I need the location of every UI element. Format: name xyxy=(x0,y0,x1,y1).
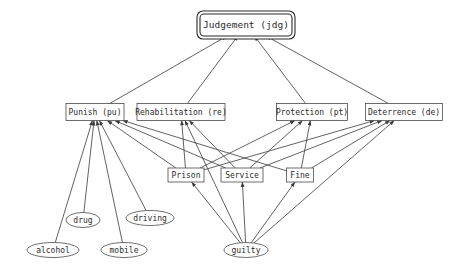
node-guilty[interactable]: guilty xyxy=(224,243,268,258)
edge-service-to-punish xyxy=(115,121,226,169)
node-judgement[interactable]: Judgement (jdg) xyxy=(197,11,295,39)
node-drug[interactable]: drug xyxy=(66,213,100,228)
node-label-mobile: mobile xyxy=(110,246,139,255)
edge-guilty-to-service xyxy=(242,182,245,243)
edge-service-to-deterrence xyxy=(260,121,382,169)
node-label-deterrence: Deterrence (de) xyxy=(368,108,440,117)
edge-mobile-to-punish xyxy=(97,121,123,243)
node-label-punish: Punish (pu) xyxy=(69,108,122,117)
node-label-protection: Protection (pt) xyxy=(276,108,348,117)
edge-layer xyxy=(55,36,394,243)
node-label-alcohol: alcohol xyxy=(36,246,70,255)
edge-prison-to-rehabilitation xyxy=(182,121,186,169)
edge-service-to-protection xyxy=(250,121,303,169)
edge-deterrence-to-judgement xyxy=(266,36,389,104)
node-label-service: Service xyxy=(225,171,259,180)
node-label-fine: Fine xyxy=(290,171,309,180)
node-label-rehabilitation: Rehabilitation (re) xyxy=(135,108,227,117)
diagram-canvas: Judgement (jdg)Punish (pu)Rehabilitation… xyxy=(0,0,461,274)
node-protection[interactable]: Protection (pt) xyxy=(276,104,348,121)
node-fine[interactable]: Fine xyxy=(287,168,314,182)
node-mobile[interactable]: mobile xyxy=(101,243,147,258)
node-alcohol[interactable]: alcohol xyxy=(27,243,79,258)
edge-protection-to-judgement xyxy=(254,36,305,104)
node-prison[interactable]: Prison xyxy=(168,168,204,182)
node-service[interactable]: Service xyxy=(221,168,263,182)
node-label-drug: drug xyxy=(73,216,92,225)
node-label-guilty: guilty xyxy=(232,246,261,255)
graph-svg: Judgement (jdg)Punish (pu)Rehabilitation… xyxy=(0,0,461,274)
node-punish[interactable]: Punish (pu) xyxy=(66,104,124,121)
node-deterrence[interactable]: Deterrence (de) xyxy=(366,104,443,121)
node-layer: Judgement (jdg)Punish (pu)Rehabilitation… xyxy=(27,11,443,258)
edge-rehabilitation-to-judgement xyxy=(187,36,237,104)
edge-drug-to-punish xyxy=(84,121,94,213)
node-label-prison: Prison xyxy=(172,171,201,180)
edge-punish-to-judgement xyxy=(110,36,227,104)
node-driving[interactable]: driving xyxy=(126,211,174,226)
node-label-judgement: Judgement (jdg) xyxy=(203,19,289,30)
edge-fine-to-punish xyxy=(123,121,287,171)
edge-prison-to-punish xyxy=(107,121,176,169)
edge-guilty-to-fine xyxy=(251,182,295,243)
node-label-driving: driving xyxy=(133,214,167,223)
edge-prison-to-protection xyxy=(200,121,295,169)
edge-fine-to-protection xyxy=(301,121,310,169)
node-rehabilitation[interactable]: Rehabilitation (re) xyxy=(135,104,227,121)
edge-guilty-to-prison xyxy=(192,182,241,243)
edge-guilty-to-deterrence xyxy=(254,121,394,244)
